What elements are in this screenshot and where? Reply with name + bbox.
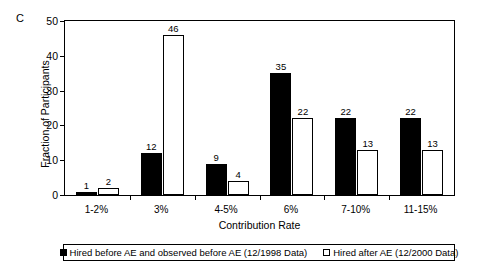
bar-group: 3522 bbox=[260, 21, 325, 195]
bar-value-label: 2 bbox=[106, 177, 111, 187]
x-axis-category-label: 6% bbox=[284, 204, 298, 215]
x-axis-category-label: 7-10% bbox=[341, 204, 370, 215]
bar-value-label: 1 bbox=[84, 181, 89, 191]
bar-value-label: 4 bbox=[235, 170, 240, 180]
bar: 46 bbox=[163, 35, 184, 195]
x-tick-mark bbox=[324, 195, 325, 200]
bar-value-label: 46 bbox=[168, 24, 179, 34]
x-axis-category-label: 4-5% bbox=[214, 204, 237, 215]
x-axis-category-label: 11-15% bbox=[404, 204, 438, 215]
bar-value-label: 22 bbox=[405, 107, 416, 117]
bar: 1 bbox=[76, 192, 97, 195]
bar: 13 bbox=[357, 150, 378, 195]
bar: 22 bbox=[335, 118, 356, 195]
bar-group: 2213 bbox=[389, 21, 454, 195]
legend-swatch-icon bbox=[323, 249, 330, 256]
bar-value-label: 9 bbox=[213, 153, 218, 163]
bar-group: 12 bbox=[65, 21, 130, 195]
bar-group: 2213 bbox=[324, 21, 389, 195]
bar: 22 bbox=[292, 118, 313, 195]
bar-value-label: 12 bbox=[146, 142, 157, 152]
bar: 4 bbox=[228, 181, 249, 195]
y-tick-mark bbox=[60, 195, 65, 196]
legend-entry: Hired after AE (12/2000 Data) bbox=[323, 247, 458, 258]
x-axis-category-label: 1-2% bbox=[85, 204, 108, 215]
legend-swatch-icon bbox=[60, 249, 67, 256]
legend-label: Hired before AE and observed before AE (… bbox=[70, 247, 308, 258]
y-tick-label: 20 bbox=[46, 119, 58, 131]
x-tick-mark bbox=[389, 195, 390, 200]
bar-value-label: 22 bbox=[298, 107, 309, 117]
bar-value-label: 35 bbox=[276, 62, 287, 72]
bar-group: 94 bbox=[195, 21, 260, 195]
y-tick-label: 10 bbox=[46, 154, 58, 166]
bar-value-label: 22 bbox=[340, 107, 351, 117]
chart-legend: Hired before AE and observed before AE (… bbox=[63, 244, 455, 261]
x-tick-mark bbox=[260, 195, 261, 200]
figure-panel-c: C Fraction of Participants 01020304050 1… bbox=[0, 0, 477, 270]
x-tick-mark bbox=[195, 195, 196, 200]
panel-label: C bbox=[16, 13, 24, 24]
bar-value-label: 13 bbox=[362, 139, 373, 149]
bar: 9 bbox=[206, 164, 227, 195]
x-tick-mark bbox=[130, 195, 131, 200]
legend-label: Hired after AE (12/2000 Data) bbox=[333, 247, 458, 258]
bar: 12 bbox=[141, 153, 162, 195]
x-axis-title: Contribution Rate bbox=[64, 219, 455, 231]
bar-group: 1246 bbox=[130, 21, 195, 195]
y-tick-label: 40 bbox=[46, 50, 58, 62]
bar: 35 bbox=[270, 73, 291, 195]
bar: 13 bbox=[422, 150, 443, 195]
legend-entry: Hired before AE and observed before AE (… bbox=[60, 247, 308, 258]
y-tick-label: 0 bbox=[52, 189, 58, 201]
bar: 22 bbox=[400, 118, 421, 195]
bar: 2 bbox=[98, 188, 119, 195]
y-tick-label: 50 bbox=[46, 15, 58, 27]
y-tick-label: 30 bbox=[46, 85, 58, 97]
bar-value-label: 13 bbox=[427, 139, 438, 149]
plot-area: 01020304050 12124694352222132213 bbox=[64, 20, 455, 196]
x-axis-category-label: 3% bbox=[154, 204, 168, 215]
